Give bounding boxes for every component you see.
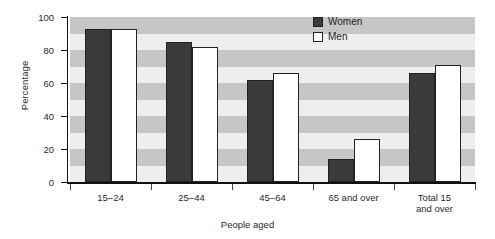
legend-label: Men [328, 32, 347, 42]
bar-men [354, 139, 380, 182]
y-tick-label: 0 [28, 178, 54, 188]
bar-women [166, 42, 192, 182]
y-tick-label: 80 [28, 46, 54, 56]
y-axis-line [67, 16, 68, 183]
x-cat-label: 15–24 [70, 192, 151, 203]
legend-swatch-women-icon [313, 17, 323, 27]
x-cat-label: 65 and over [313, 192, 394, 203]
legend-item-women: Women [313, 15, 362, 29]
y-tick-label: 100 [28, 13, 54, 23]
bar-men [435, 65, 461, 182]
x-tick-mark [394, 184, 395, 190]
x-cat-label: 45–64 [232, 192, 313, 203]
y-axis-tick-labels: 100 80 60 40 20 0 [28, 0, 54, 239]
y-tick-label: 60 [28, 79, 54, 89]
bar-women [247, 80, 273, 182]
bar-men [192, 47, 218, 182]
x-tick-mark [232, 184, 233, 190]
x-tick-mark [151, 184, 152, 190]
y-tick-label: 40 [28, 112, 54, 122]
bar-women [409, 73, 435, 182]
x-cat-label: 25–44 [151, 192, 232, 203]
x-cat-label: Total 15 and over [394, 192, 475, 214]
x-tick-mark [313, 184, 314, 190]
bar-men [111, 29, 137, 182]
x-axis-line [67, 182, 476, 184]
bar-women [328, 159, 354, 182]
bar-chart: Percentage 100 80 60 40 20 0 15–24 25–44… [0, 0, 495, 239]
plot-area [70, 17, 475, 182]
legend-swatch-men-icon [313, 32, 323, 42]
legend-item-men: Men [313, 30, 362, 44]
x-tick-mark [475, 184, 476, 190]
legend: Women Men [313, 15, 362, 45]
x-tick-mark [70, 184, 71, 190]
legend-label: Women [328, 17, 362, 27]
y-tick-label: 20 [28, 145, 54, 155]
bar-men [273, 73, 299, 182]
x-axis-title: People aged [0, 219, 495, 230]
bar-women [85, 29, 111, 182]
